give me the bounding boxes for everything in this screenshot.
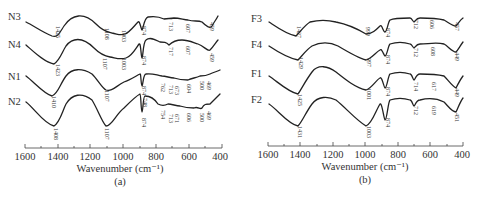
series-label-n2: N2 — [8, 96, 21, 107]
panel-label-a: (a) — [114, 176, 126, 188]
peak-label: 617 — [431, 82, 437, 91]
series-label-n3: N3 — [8, 11, 21, 22]
peak-label: 1431 — [297, 126, 303, 138]
peak-label: 874 — [141, 26, 147, 35]
series-label-f4: F4 — [251, 39, 263, 50]
x-tick-label: 1000 — [113, 151, 134, 162]
panel-label-b: (b) — [359, 174, 372, 186]
peak-label: 748 — [142, 98, 148, 107]
x-tick-label: 600 — [181, 151, 197, 162]
peak-label: 874 — [141, 56, 147, 65]
peak-label: 874 — [141, 118, 147, 127]
peak-label: 997 — [366, 58, 372, 67]
x-axis-b: 1600 1400 1200 1000 800 600 400 Wavenumb… — [258, 142, 470, 186]
peak-label: 1423 — [55, 64, 61, 76]
peak-label: 1001 — [366, 88, 372, 100]
x-tick-label: 1200 — [80, 151, 101, 162]
x-tick-label: 600 — [422, 149, 438, 160]
peak-label: 1003 — [121, 30, 127, 42]
peak-label: 713 — [168, 114, 174, 123]
peak-label: 874 — [385, 118, 391, 127]
x-tick-label: 1600 — [258, 149, 279, 160]
peak-label: 459 — [209, 22, 215, 31]
x-axis-title-a: Wavenumber (cm⁻¹) — [77, 163, 164, 175]
peak-label: 607 — [185, 46, 191, 55]
peak-label: 999 — [365, 27, 371, 36]
peak-label: 1107 — [104, 90, 110, 102]
peak-label: 500 — [199, 113, 205, 122]
peak-label: 717 — [168, 47, 174, 56]
peak-label: 712 — [413, 20, 419, 29]
x-tick-label: 1200 — [323, 149, 344, 160]
series-label-f1: F1 — [251, 68, 262, 79]
x-tick-label: 800 — [148, 151, 164, 162]
peak-label: 1408 — [53, 128, 59, 140]
peak-label: 874 — [385, 55, 391, 64]
peak-label: 1107 — [102, 58, 108, 70]
panel-a: 1425110810038747136074591423110710038747… — [8, 11, 228, 188]
x-tick-label: 1400 — [290, 149, 311, 160]
peak-label: 1429 — [298, 57, 304, 69]
peak-label: 1107 — [104, 128, 110, 140]
ftir-figure: 1425110810038747136074591423110710038747… — [0, 0, 479, 198]
x-axis-title-b: Wavenumber (cm⁻¹) — [322, 161, 409, 173]
peak-label: 1427 — [296, 26, 302, 38]
peak-label: 451 — [454, 113, 460, 122]
peak-label: 1410 — [51, 96, 57, 108]
peak-label: 1003 — [366, 126, 372, 138]
peak-label: 500 — [199, 81, 205, 90]
peak-label: 619 — [431, 106, 437, 115]
peak-label: 874 — [385, 28, 391, 37]
series-label-n1: N1 — [8, 71, 21, 82]
x-tick-label: 1000 — [355, 149, 376, 160]
peak-label: 606 — [429, 20, 435, 29]
x-tick-label: 1400 — [48, 151, 69, 162]
peak-label: 714 — [413, 82, 419, 91]
x-tick-label: 800 — [390, 149, 406, 160]
x-axis-a: 1600 1400 1200 1000 800 600 400 Wavenumb… — [15, 144, 228, 188]
peak-label: 607 — [185, 24, 191, 33]
peak-label: 1425 — [297, 94, 303, 106]
peak-label: 713 — [168, 85, 174, 94]
peak-label: 608 — [430, 47, 436, 56]
peak-label: 712 — [413, 106, 419, 115]
peak-label: 713 — [168, 22, 174, 31]
peak-label: 874 — [385, 87, 391, 96]
peak-label: 459 — [209, 53, 215, 62]
peak-label: 762 — [160, 83, 166, 92]
peak-label: 469 — [206, 81, 212, 90]
peak-label: 1003 — [121, 58, 127, 70]
panel-b: 1427999874712606457142999787471260844914… — [251, 13, 470, 186]
peak-label: 1108 — [104, 28, 110, 40]
peak-label: 671 — [174, 114, 180, 123]
x-tick-label: 400 — [212, 151, 228, 162]
peak-label: 673 — [174, 86, 180, 95]
peak-label: 449 — [454, 88, 460, 97]
peak-label: 457 — [454, 22, 460, 31]
peak-label: 1425 — [55, 26, 61, 38]
peak-label: 469 — [206, 111, 212, 120]
series-label-f2: F2 — [251, 94, 262, 105]
peak-label: 449 — [454, 52, 460, 61]
peak-label: 754 — [160, 110, 166, 119]
series-label-f3: F3 — [251, 13, 262, 24]
x-tick-label: 1600 — [15, 151, 36, 162]
peak-label: 712 — [413, 48, 419, 57]
series-label-n4: N4 — [8, 39, 22, 50]
peak-label: 874 — [141, 86, 147, 95]
x-tick-label: 400 — [454, 149, 470, 160]
peak-label: 604 — [186, 84, 192, 93]
peak-label: 606 — [186, 113, 192, 122]
